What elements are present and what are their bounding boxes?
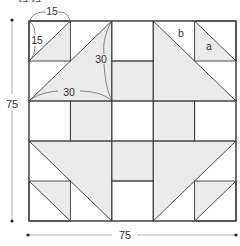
label-cell-height: 15 — [31, 34, 43, 46]
label-triangle-horizontal: 30 — [63, 86, 75, 98]
label-cell-width: 15 — [46, 5, 58, 17]
quilt-block-diagram: 15 15 30 30 b a 75 75 — [0, 0, 240, 246]
label-total-width: 75 — [119, 229, 131, 241]
shaded-square — [112, 141, 153, 181]
label-total-height: 75 — [6, 98, 18, 110]
dim-dot-height-top — [10, 18, 13, 21]
dim-dot-width-left — [26, 233, 29, 236]
dim-dot-height-bottom — [10, 219, 13, 222]
shaded-square — [70, 101, 111, 141]
label-piece-a: a — [206, 40, 212, 52]
shaded-square — [112, 61, 153, 101]
label-triangle-vertical: 30 — [95, 53, 107, 65]
quilt-pieces — [29, 21, 236, 221]
label-piece-b: b — [178, 27, 184, 39]
shaded-square — [153, 101, 194, 141]
dim-dot-width-right — [234, 233, 237, 236]
